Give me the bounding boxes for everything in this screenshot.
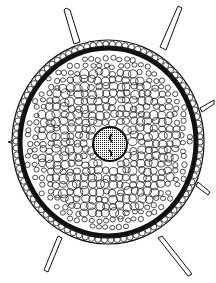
illustration bbox=[0, 0, 216, 283]
stele bbox=[93, 127, 127, 161]
